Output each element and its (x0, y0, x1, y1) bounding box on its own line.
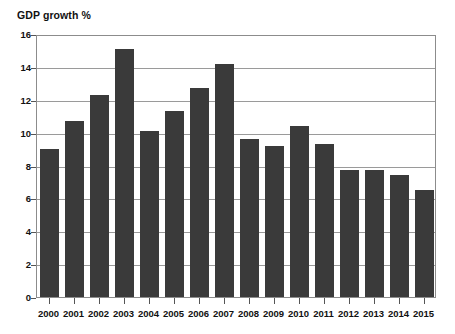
gdp-growth-bar-chart: GDP growth % 0246810121416 2000200120022… (0, 0, 455, 334)
x-tick-mark (324, 298, 325, 304)
y-tick-label: 16 (5, 30, 31, 40)
bar-2011 (315, 144, 334, 297)
bar-slot (65, 34, 84, 297)
bar-2000 (40, 149, 59, 297)
x-tick-mark (224, 298, 225, 304)
x-tick-label: 2015 (404, 309, 444, 319)
bar-2015 (415, 190, 434, 297)
y-tick-label: 0 (5, 293, 31, 303)
x-tick-mark (424, 298, 425, 304)
y-tick-label: 2 (5, 260, 31, 270)
x-tick-mark (174, 298, 175, 304)
bar-2003 (115, 49, 134, 297)
bar-slot (240, 34, 259, 297)
bar-slot (315, 34, 334, 297)
bar-2002 (90, 95, 109, 297)
bar-slot (190, 34, 209, 297)
bar-2009 (265, 146, 284, 297)
x-tick-mark (299, 298, 300, 304)
y-tick-mark (31, 101, 36, 102)
y-tick-label: 10 (5, 129, 31, 139)
bar-2007 (215, 64, 234, 297)
bar-slot (415, 34, 434, 297)
y-axis: 0246810121416 (0, 0, 31, 334)
bar-slot (340, 34, 359, 297)
bar-2008 (240, 139, 259, 297)
y-tick-mark (31, 232, 36, 233)
bar-2004 (140, 131, 159, 297)
x-tick-mark (74, 298, 75, 304)
x-tick-mark (274, 298, 275, 304)
bar-slot (390, 34, 409, 297)
y-tick-label: 4 (5, 228, 31, 238)
bar-slot (365, 34, 384, 297)
bar-slot (90, 34, 109, 297)
y-tick-mark (31, 265, 36, 266)
bar-2014 (390, 175, 409, 297)
bar-slot (115, 34, 134, 297)
y-tick-label: 12 (5, 96, 31, 106)
bar-slot (165, 34, 184, 297)
x-tick-mark (374, 298, 375, 304)
x-tick-mark (399, 298, 400, 304)
x-tick-mark (49, 298, 50, 304)
x-tick-mark (99, 298, 100, 304)
x-tick-mark (249, 298, 250, 304)
plot-area (36, 35, 436, 298)
bar-slot (40, 34, 59, 297)
bar-2005 (165, 111, 184, 297)
x-tick-mark (199, 298, 200, 304)
bar-2013 (365, 170, 384, 297)
bar-slot (140, 34, 159, 297)
y-tick-label: 6 (5, 195, 31, 205)
y-tick-mark (31, 68, 36, 69)
y-tick-label: 14 (5, 63, 31, 73)
y-tick-mark (31, 134, 36, 135)
bar-2006 (190, 88, 209, 297)
bar-slot (265, 34, 284, 297)
bar-slot (290, 34, 309, 297)
x-tick-mark (149, 298, 150, 304)
bar-slot (215, 34, 234, 297)
bar-2001 (65, 121, 84, 297)
y-tick-mark (31, 167, 36, 168)
bar-2010 (290, 126, 309, 297)
x-tick-mark (124, 298, 125, 304)
y-tick-mark (31, 35, 36, 36)
bar-2012 (340, 170, 359, 297)
y-tick-mark (31, 199, 36, 200)
x-tick-mark (349, 298, 350, 304)
bars-group (37, 36, 435, 297)
y-tick-mark (31, 298, 36, 299)
y-tick-label: 8 (5, 162, 31, 172)
